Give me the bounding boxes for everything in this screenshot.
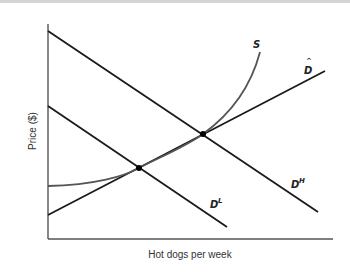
demand-hat-line <box>48 71 325 215</box>
demand-low-superscript: L <box>218 197 222 205</box>
supply-label: S <box>253 39 260 50</box>
demand-high-line <box>48 31 318 212</box>
x-axis-label: Hot dogs per week <box>148 249 232 260</box>
high-equilibrium-point <box>200 131 206 137</box>
demand-high-superscript: H <box>299 177 305 185</box>
demand-hat-label: D <box>304 65 312 76</box>
y-axis-label: Price ($) <box>27 112 38 150</box>
supply-curve <box>48 52 260 186</box>
low-equilibrium-point <box>136 165 142 171</box>
supply-demand-chart: S D ^ D H D L Hot dogs per week Price ($… <box>0 0 350 277</box>
demand-hat-accent: ^ <box>306 57 312 65</box>
